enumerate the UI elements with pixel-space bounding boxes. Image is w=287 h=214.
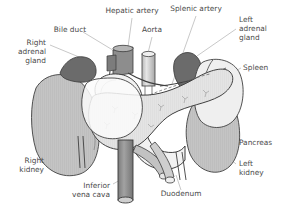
svg-text:kidney: kidney — [19, 165, 44, 174]
stomach-outline-shape — [82, 78, 143, 139]
label-bile-duct: Bile duct — [54, 25, 87, 34]
label-pancreas: Pancreas — [239, 138, 272, 147]
svg-text:adrenal: adrenal — [18, 47, 46, 56]
svg-text:vena cava: vena cava — [72, 190, 110, 199]
label-spleen: Spleen — [243, 63, 269, 72]
svg-text:Right: Right — [27, 38, 47, 47]
svg-text:Left: Left — [239, 159, 253, 168]
svg-text:adrenal: adrenal — [239, 24, 267, 33]
label-duodenum: Duodenum — [161, 189, 202, 198]
svg-text:kidney: kidney — [239, 168, 264, 177]
label-splenic-artery: Splenic artery — [170, 4, 222, 13]
svg-text:gland: gland — [25, 56, 46, 65]
svg-text:Inferior: Inferior — [83, 181, 111, 190]
svg-text:Right: Right — [25, 156, 45, 165]
label-hepatic-artery: Hepatic artery — [105, 6, 159, 15]
anatomy-figure: Hepatic artery Splenic artery Bile duct … — [0, 0, 287, 214]
label-aorta: Aorta — [142, 25, 162, 34]
svg-text:gland: gland — [239, 33, 260, 42]
svg-text:Left: Left — [239, 15, 253, 24]
